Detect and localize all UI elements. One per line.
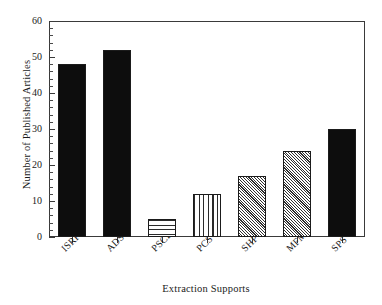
y-tick-major (49, 129, 55, 130)
y-tick-label: 60 (2, 16, 42, 26)
y-tick-minor (49, 43, 53, 44)
bar-pscl (148, 219, 176, 237)
y-tick-minor (49, 158, 53, 159)
y-tick-minor (49, 107, 53, 108)
bar-pcs (193, 194, 221, 237)
y-tick-minor (49, 71, 53, 72)
y-tick-major (49, 93, 55, 94)
y-tick-minor (49, 179, 53, 180)
bar-ads (103, 50, 131, 237)
y-tick-label: 20 (2, 160, 42, 170)
y-tick-major (49, 237, 55, 238)
y-tick-label: 50 (2, 52, 42, 62)
y-tick-minor (49, 187, 53, 188)
y-tick-minor (49, 50, 53, 51)
y-tick-minor (49, 100, 53, 101)
y-tick-minor (49, 86, 53, 87)
y-tick-label: 30 (2, 124, 42, 134)
y-tick-minor (49, 215, 53, 216)
y-tick-minor (49, 194, 53, 195)
y-tick-minor (49, 28, 53, 29)
y-tick-major (49, 21, 55, 22)
y-tick-minor (49, 172, 53, 173)
y-tick-major (49, 201, 55, 202)
y-tick-major (49, 165, 55, 166)
y-tick-minor (49, 35, 53, 36)
y-tick-minor (49, 79, 53, 80)
bar-mfm (283, 151, 311, 237)
y-tick-label: 0 (2, 232, 42, 242)
y-tick-minor (49, 208, 53, 209)
bar-chart-figure: Number of Published Articles 01020304050… (0, 0, 382, 305)
y-tick-minor (49, 230, 53, 231)
y-tick-minor (49, 115, 53, 116)
y-tick-label: 10 (2, 196, 42, 206)
bar-isrp (58, 64, 86, 237)
y-tick-minor (49, 143, 53, 144)
bar-shp (238, 176, 266, 237)
bar-sps (328, 129, 356, 237)
x-axis-title: Extraction Supports (46, 283, 366, 294)
y-tick-minor (49, 64, 53, 65)
y-tick-minor (49, 223, 53, 224)
y-tick-label: 40 (2, 88, 42, 98)
y-tick-minor (49, 136, 53, 137)
y-tick-minor (49, 122, 53, 123)
y-tick-minor (49, 151, 53, 152)
y-tick-major (49, 57, 55, 58)
